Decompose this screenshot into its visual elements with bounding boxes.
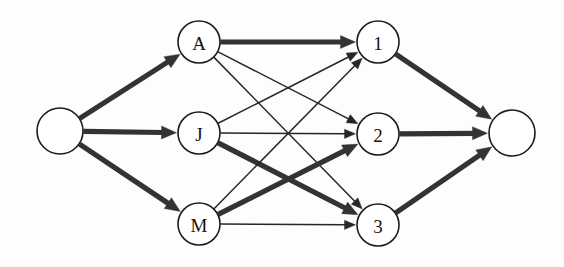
edge-source-M — [80, 144, 170, 204]
node-circle-sink — [489, 110, 535, 156]
node-J[interactable]: J — [178, 112, 220, 154]
node-circle-1 — [357, 21, 399, 63]
node-circle-A — [178, 21, 220, 63]
edge-J-2 — [220, 133, 346, 134]
node-circle-source — [37, 108, 83, 154]
arrowhead-2-sink — [472, 127, 487, 140]
arrowhead-A-2 — [346, 115, 358, 124]
node-circle-J — [178, 112, 220, 154]
arrowhead-source-J — [161, 126, 176, 139]
arrowhead-J-1 — [346, 52, 358, 61]
edge-A-2 — [218, 52, 350, 120]
edge-source-J — [83, 131, 163, 132]
arrowhead-J-2 — [344, 129, 355, 138]
edge-J-3 — [218, 143, 346, 209]
node-circle-3 — [357, 204, 399, 246]
node-source[interactable] — [37, 108, 83, 154]
node-3[interactable]: 3 — [357, 204, 399, 246]
node-M[interactable]: M — [178, 203, 220, 245]
edge-1-sink — [396, 54, 481, 112]
network-diagram: AJM123 — [0, 0, 564, 267]
arrowhead-M-3 — [344, 220, 355, 229]
edge-2-sink — [399, 133, 474, 134]
arrowhead-A-1 — [341, 36, 356, 49]
node-circle-M — [178, 203, 220, 245]
node-1[interactable]: 1 — [357, 21, 399, 63]
edge-M-2 — [218, 150, 346, 214]
edge-layer — [80, 42, 482, 225]
network-diagram-canvas: AJM123 — [0, 0, 564, 267]
edge-M-3 — [220, 224, 346, 225]
edge-source-A — [80, 61, 169, 118]
node-2[interactable]: 2 — [357, 113, 399, 155]
node-sink[interactable] — [489, 110, 535, 156]
node-A[interactable]: A — [178, 21, 220, 63]
edge-3-sink — [396, 154, 481, 213]
node-circle-2 — [357, 113, 399, 155]
